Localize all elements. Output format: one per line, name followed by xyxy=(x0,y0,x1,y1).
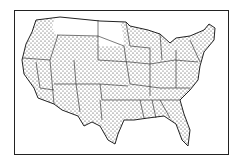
stipple-fill xyxy=(0,0,242,167)
us-map xyxy=(0,0,242,167)
